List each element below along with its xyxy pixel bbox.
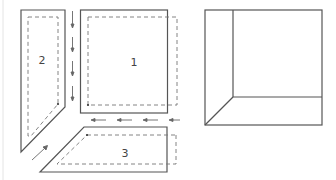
assembled-corner-figure: [205, 10, 322, 125]
panel-1-label: 1: [131, 56, 138, 69]
diagram-canvas: 2 1 3: [0, 0, 336, 180]
arrows-left-icon: [91, 119, 180, 122]
panel-1: 1: [81, 10, 178, 113]
panel-2: 2: [21, 10, 65, 152]
panel-3: 3: [40, 127, 176, 172]
arrows-down-icon: [71, 11, 74, 101]
panel-2-label: 2: [39, 54, 46, 67]
arrow-diagonal-icon: [32, 146, 48, 161]
panel-3-label: 3: [122, 147, 129, 160]
